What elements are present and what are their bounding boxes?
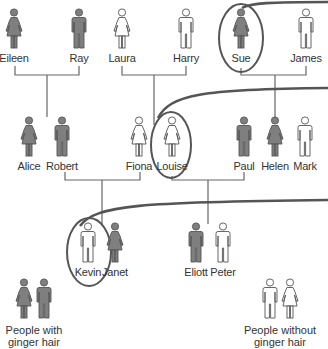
male-no-ginger-icon — [260, 278, 280, 324]
legend-ginger: People with ginger hair — [2, 278, 66, 348]
person-laura: Laura — [107, 8, 137, 64]
person-name-label: Kevin — [75, 266, 102, 278]
legend-ginger-line1: People with — [2, 324, 66, 336]
person-robert: Robert — [47, 116, 77, 172]
person-alice: Alice — [14, 116, 44, 172]
female-ginger-icon — [14, 278, 34, 324]
person-name-label: Janet — [102, 266, 128, 278]
male-ginger-icon — [34, 278, 54, 324]
person-name-label: Fiona — [126, 160, 153, 172]
legend-no-ginger-line2: ginger hair — [240, 336, 320, 348]
person-helen: Helen — [260, 116, 290, 172]
female-no-ginger-icon — [280, 278, 300, 324]
person-name-label: Paul — [233, 160, 254, 172]
person-name-label: Ray — [70, 52, 89, 64]
person-name-label: Eliott — [184, 266, 207, 278]
person-janet: Janet — [100, 222, 130, 278]
person-james: James — [291, 8, 321, 64]
person-name-label: James — [290, 52, 321, 64]
person-peter: Peter — [208, 222, 238, 278]
legend-no-ginger-line1: People without — [240, 324, 320, 336]
person-eileen: Eileen — [0, 8, 29, 64]
person-name-label: Alice — [18, 160, 41, 172]
person-name-label: Eileen — [0, 52, 29, 64]
person-kevin: Kevin — [73, 222, 103, 278]
person-name-label: Louise — [156, 160, 187, 172]
legend-no-ginger: People without ginger hair — [240, 278, 320, 348]
person-name-label: Laura — [108, 52, 135, 64]
person-name-label: Mark — [293, 160, 317, 172]
person-louise: Louise — [157, 116, 187, 172]
person-harry: Harry — [171, 8, 201, 64]
person-eliott: Eliott — [181, 222, 211, 278]
person-fiona: Fiona — [124, 116, 154, 172]
legend-ginger-line2: ginger hair — [2, 336, 66, 348]
person-name-label: Robert — [46, 160, 78, 172]
person-mark: Mark — [290, 116, 320, 172]
person-ray: Ray — [64, 8, 94, 64]
person-name-label: Helen — [261, 160, 289, 172]
person-name-label: Sue — [232, 52, 251, 64]
person-name-label: Harry — [173, 52, 199, 64]
person-sue: Sue — [226, 8, 256, 64]
person-paul: Paul — [229, 116, 259, 172]
person-name-label: Peter — [210, 266, 235, 278]
